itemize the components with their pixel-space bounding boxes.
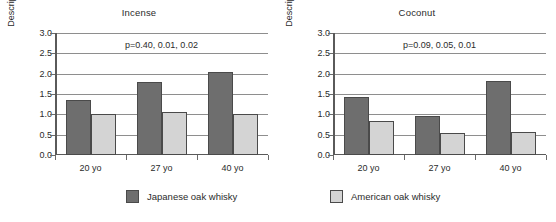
bar bbox=[137, 82, 162, 155]
y-tick-labels: 0.00.51.01.52.02.53.0 bbox=[300, 33, 330, 155]
bar bbox=[440, 133, 465, 155]
legend: Japanese oak whisky American oak whisky bbox=[0, 190, 556, 216]
y-axis-label: Description score bbox=[284, 0, 296, 47]
x-tick-marks bbox=[55, 155, 268, 160]
bar bbox=[369, 121, 394, 155]
x-tick-mark bbox=[197, 155, 198, 160]
chart-panel-coconut: Coconut Description score 0.00.51.01.52.… bbox=[278, 0, 556, 186]
x-tick-mark bbox=[55, 155, 56, 160]
x-tick-mark bbox=[475, 155, 476, 160]
bar bbox=[233, 114, 258, 155]
bars-layer bbox=[333, 33, 546, 155]
x-tick-mark bbox=[404, 155, 405, 160]
x-tick-label: 20 yo bbox=[357, 163, 379, 173]
y-tick-labels: 0.00.51.01.52.02.53.0 bbox=[22, 33, 52, 155]
bar bbox=[208, 72, 233, 155]
bar bbox=[344, 97, 369, 155]
bar bbox=[486, 81, 511, 155]
plot-area: 0.00.51.01.52.02.53.0 p=0.09, 0.05, 0.01… bbox=[333, 33, 546, 155]
plot-area: 0.00.51.01.52.02.53.0 p=0.40, 0.01, 0.02… bbox=[55, 33, 268, 155]
x-tick-label: 40 yo bbox=[221, 163, 243, 173]
bar bbox=[162, 112, 187, 155]
x-tick-labels: 20 yo27 yo40 yo bbox=[55, 163, 268, 177]
legend-swatch-icon bbox=[126, 190, 139, 203]
chart-title: Incense bbox=[0, 7, 278, 18]
legend-label: American oak whisky bbox=[351, 191, 440, 202]
p-value-annotation: p=0.40, 0.01, 0.02 bbox=[55, 40, 268, 50]
bar bbox=[66, 100, 91, 155]
legend-entry-japanese: Japanese oak whisky bbox=[126, 190, 237, 203]
charts-row: Incense Description score 0.00.51.01.52.… bbox=[0, 0, 556, 186]
x-tick-label: 27 yo bbox=[150, 163, 172, 173]
x-tick-mark bbox=[126, 155, 127, 160]
y-axis-label: Description score bbox=[6, 0, 18, 47]
figure: Incense Description score 0.00.51.01.52.… bbox=[0, 0, 556, 222]
p-value-annotation: p=0.09, 0.05, 0.01 bbox=[333, 40, 546, 50]
legend-swatch-icon bbox=[330, 190, 343, 203]
x-tick-label: 20 yo bbox=[79, 163, 101, 173]
bar bbox=[415, 116, 440, 155]
legend-entry-american: American oak whisky bbox=[330, 190, 440, 203]
x-tick-label: 40 yo bbox=[499, 163, 521, 173]
bar bbox=[511, 132, 536, 155]
x-tick-labels: 20 yo27 yo40 yo bbox=[333, 163, 546, 177]
chart-title: Coconut bbox=[278, 7, 556, 18]
bar bbox=[91, 114, 116, 155]
legend-label: Japanese oak whisky bbox=[147, 191, 237, 202]
x-tick-marks bbox=[333, 155, 546, 160]
chart-panel-incense: Incense Description score 0.00.51.01.52.… bbox=[0, 0, 278, 186]
bars-layer bbox=[55, 33, 268, 155]
x-tick-label: 27 yo bbox=[428, 163, 450, 173]
x-tick-mark bbox=[333, 155, 334, 160]
x-tick-mark bbox=[268, 155, 269, 160]
x-tick-mark bbox=[546, 155, 547, 160]
